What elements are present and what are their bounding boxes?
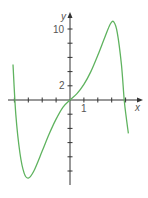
- y-axis-arrow-icon: [68, 12, 73, 18]
- x-axis-label: x: [134, 102, 141, 113]
- y-tick-label-2: 2: [59, 80, 65, 91]
- y-axis-label: y: [60, 11, 67, 22]
- y-tick-label-10: 10: [53, 24, 65, 35]
- function-graph: x y 1 2 10: [0, 0, 148, 198]
- axes: [8, 12, 143, 185]
- x-tick-label-1: 1: [81, 103, 87, 114]
